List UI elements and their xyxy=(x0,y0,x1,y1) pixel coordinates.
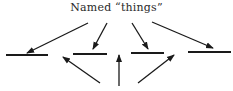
arrow-diagram xyxy=(0,0,233,91)
arrow-icon xyxy=(93,23,107,49)
arrow-icon xyxy=(63,57,100,83)
bottom-arrows xyxy=(63,55,174,86)
arrow-icon xyxy=(132,23,148,49)
top-arrows xyxy=(27,22,213,53)
arrow-icon xyxy=(27,23,88,53)
arrow-icon xyxy=(152,22,213,48)
arrow-icon xyxy=(138,55,174,83)
named-things-lines xyxy=(6,52,231,55)
